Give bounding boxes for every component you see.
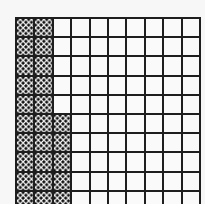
grid-cell [72, 19, 90, 38]
grid-cell [146, 134, 164, 153]
grid-cell [183, 57, 201, 76]
grid-cell [91, 96, 109, 115]
figure-stage [0, 0, 205, 204]
grid-cell [109, 96, 127, 115]
grid-cell [127, 57, 145, 76]
grid-cell [127, 19, 145, 38]
grid-cell [72, 96, 90, 115]
shaded-grid-cell [17, 153, 35, 172]
grid-cell [54, 57, 72, 76]
shaded-grid-cell [54, 153, 72, 172]
grid-cell [91, 57, 109, 76]
shaded-grid-cell [17, 115, 35, 134]
grid-cell [164, 57, 182, 76]
grid-cell [91, 77, 109, 96]
grid-cell [164, 77, 182, 96]
grid-cell [72, 57, 90, 76]
grid-cell [91, 173, 109, 192]
grid-cell [164, 153, 182, 172]
grid-cell [146, 173, 164, 192]
shaded-grid-cell [35, 57, 53, 76]
grid-cell [164, 19, 182, 38]
shaded-grid-cell [17, 134, 35, 153]
grid-cell [146, 57, 164, 76]
grid-cell [91, 19, 109, 38]
grid-cell [109, 173, 127, 192]
shaded-grid-cell [35, 134, 53, 153]
shaded-grid-cell [54, 192, 72, 204]
grid-cell [109, 19, 127, 38]
shaded-grid-cell [17, 19, 35, 38]
grid-cell [164, 38, 182, 57]
grid-cell [54, 19, 72, 38]
grid-cell [146, 77, 164, 96]
grid-cell [72, 173, 90, 192]
shaded-grid-cell [35, 115, 53, 134]
shaded-grid-cell [35, 96, 53, 115]
grid-cell [127, 38, 145, 57]
grid-cell [54, 96, 72, 115]
shaded-grid-cell [17, 173, 35, 192]
grid-cell [127, 134, 145, 153]
grid-cell [109, 77, 127, 96]
shaded-grid-cell [35, 192, 53, 204]
shaded-grid-cell [35, 19, 53, 38]
shaded-grid-cell [17, 192, 35, 204]
grid-cell [127, 115, 145, 134]
grid-cell [164, 192, 182, 204]
grid-cell [127, 96, 145, 115]
grid-cell [91, 134, 109, 153]
grid-cell [109, 38, 127, 57]
grid-cell [146, 153, 164, 172]
grid-cell [164, 115, 182, 134]
grid-cell [72, 115, 90, 134]
grid-cell [127, 173, 145, 192]
shaded-grid-cell [35, 173, 53, 192]
shaded-grid-cell [54, 134, 72, 153]
grid-cell [146, 115, 164, 134]
grid-cell [72, 192, 90, 204]
grid-cell [183, 192, 201, 204]
shaded-grid-cell [17, 77, 35, 96]
grid-cell [146, 38, 164, 57]
grid-cell [127, 153, 145, 172]
grid-cell [183, 134, 201, 153]
grid-cell [183, 115, 201, 134]
grid-cell [54, 77, 72, 96]
shaded-grid-cell [54, 173, 72, 192]
grid-cell [91, 192, 109, 204]
grid-cell [54, 38, 72, 57]
grid-cell [183, 38, 201, 57]
grid-cell [164, 134, 182, 153]
shaded-grid-cell [17, 38, 35, 57]
grid-cell [164, 173, 182, 192]
grid-cell [72, 134, 90, 153]
grid-cell [72, 77, 90, 96]
shaded-grid-cell [35, 77, 53, 96]
hundred-grid [15, 17, 201, 204]
grid-cell [146, 19, 164, 38]
shaded-grid-cell [17, 96, 35, 115]
grid-cell [72, 153, 90, 172]
shaded-grid-cell [35, 38, 53, 57]
grid-cell [91, 38, 109, 57]
grid-cell [127, 192, 145, 204]
grid-cell [109, 115, 127, 134]
grid-cell [146, 96, 164, 115]
grid-cell [109, 192, 127, 204]
grid-cell [127, 77, 145, 96]
grid-cell [146, 192, 164, 204]
grid-cell [183, 153, 201, 172]
shaded-grid-cell [35, 153, 53, 172]
grid-cell [72, 38, 90, 57]
grid-cell [183, 77, 201, 96]
grid-cell [109, 134, 127, 153]
grid-cell [183, 19, 201, 38]
grid-cell [109, 153, 127, 172]
grid-cell [183, 96, 201, 115]
grid-cell [183, 173, 201, 192]
grid-cell [164, 96, 182, 115]
grid-cell [91, 153, 109, 172]
grid-cell [109, 57, 127, 76]
shaded-grid-cell [17, 57, 35, 76]
